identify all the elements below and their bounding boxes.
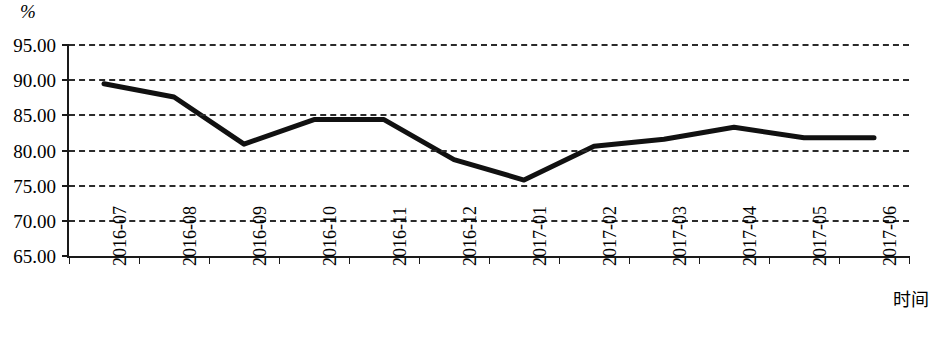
- series-polyline: [104, 84, 874, 180]
- gridline: [69, 79, 909, 81]
- x-axis-label: 2016-10: [321, 206, 339, 266]
- y-axis-tick: [62, 255, 69, 257]
- x-axis-label: 2017-05: [811, 206, 829, 266]
- y-axis-tick: [62, 150, 69, 152]
- x-axis-tick: [349, 256, 350, 264]
- x-axis-label: 2017-02: [601, 206, 619, 266]
- x-axis-label: 2016-12: [461, 206, 479, 266]
- x-axis-label: 2017-06: [881, 206, 899, 266]
- gridline: [69, 150, 909, 152]
- y-axis-label: 95.00: [0, 36, 56, 55]
- x-axis-tick: [279, 256, 280, 264]
- x-axis-tick: [559, 256, 560, 264]
- x-axis-tick: [489, 256, 490, 264]
- x-axis-tick: [209, 256, 210, 264]
- gridline: [69, 185, 909, 187]
- x-axis-label: 2017-04: [741, 206, 759, 266]
- x-axis-tick: [839, 256, 840, 264]
- x-axis-tick: [629, 256, 630, 264]
- x-axis-tick: [69, 256, 70, 264]
- y-axis-label: 80.00: [0, 142, 56, 161]
- x-axis-label: 2017-01: [531, 206, 549, 266]
- y-axis-tick: [62, 44, 69, 46]
- y-axis-tick: [62, 79, 69, 81]
- gridline: [69, 114, 909, 116]
- y-axis-label: 90.00: [0, 71, 56, 90]
- y-axis-label: 75.00: [0, 177, 56, 196]
- x-axis-label: 2016-11: [391, 207, 409, 266]
- y-axis-label: 65.00: [0, 247, 56, 266]
- gridline: [69, 44, 909, 46]
- x-axis-tick: [909, 256, 910, 264]
- y-axis-label: 85.00: [0, 106, 56, 125]
- x-axis-title: 时间: [893, 285, 929, 311]
- x-axis-tick: [699, 256, 700, 264]
- x-axis-label: 2016-08: [181, 206, 199, 266]
- x-axis-label: 2016-07: [111, 206, 129, 266]
- y-axis-label: 70.00: [0, 212, 56, 231]
- x-axis-label: 2016-09: [251, 206, 269, 266]
- x-axis-tick: [139, 256, 140, 264]
- y-axis-tick: [62, 220, 69, 222]
- x-axis-tick: [419, 256, 420, 264]
- y-axis-tick: [62, 114, 69, 116]
- x-axis-label: 2017-03: [671, 206, 689, 266]
- line-chart: % 时间 65.0070.0075.0080.0085.0090.0095.00…: [0, 0, 935, 338]
- x-axis-tick: [769, 256, 770, 264]
- y-axis-unit-label: %: [20, 2, 36, 21]
- y-axis-tick: [62, 185, 69, 187]
